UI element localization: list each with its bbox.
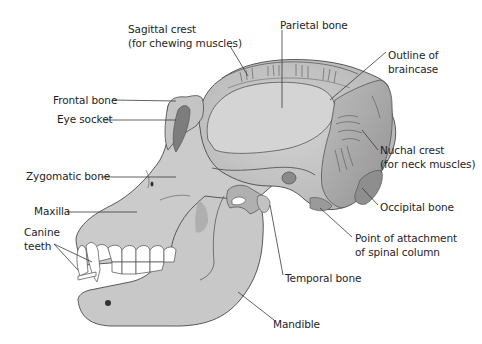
label-line: Sagittal crest — [128, 22, 242, 36]
label-line: Occipital bone — [380, 200, 454, 214]
label-line: braincase — [388, 62, 438, 76]
label-line: Maxilla — [34, 204, 70, 218]
leader-temporal-bone — [270, 205, 283, 275]
label-nuchal-crest: Nuchal crest (for neck muscles) — [380, 143, 475, 171]
skull-diagram: Sagittal crest (for chewing muscles) Par… — [0, 0, 482, 344]
leader-mandible — [238, 292, 274, 320]
leader-spinal-attachment — [320, 208, 352, 237]
label-line: Canine — [24, 225, 60, 239]
label-mandible: Mandible — [273, 317, 320, 331]
label-canine-teeth: Canine teeth — [24, 225, 60, 253]
label-line: Point of attachment — [355, 231, 457, 245]
label-maxilla: Maxilla — [34, 204, 70, 218]
label-line: of spinal column — [355, 245, 457, 259]
leader-frontal-bone — [112, 100, 176, 101]
ear-opening — [282, 172, 296, 184]
label-line: (for chewing muscles) — [128, 36, 242, 50]
label-occipital-bone: Occipital bone — [380, 200, 454, 214]
label-zygomatic-bone: Zygomatic bone — [26, 169, 110, 183]
label-line: Temporal bone — [285, 271, 361, 285]
label-line: Parietal bone — [280, 18, 348, 32]
label-line: (for neck muscles) — [380, 157, 475, 171]
mental-foramen — [105, 300, 111, 306]
label-temporal-bone: Temporal bone — [285, 271, 361, 285]
label-line: Mandible — [273, 317, 320, 331]
label-spinal-attachment: Point of attachment of spinal column — [355, 231, 457, 259]
label-parietal-bone: Parietal bone — [280, 18, 348, 32]
label-line: Eye socket — [57, 112, 113, 126]
label-line: Frontal bone — [53, 93, 117, 107]
label-line: Zygomatic bone — [26, 169, 110, 183]
label-outline-braincase: Outline of braincase — [388, 48, 438, 76]
label-line: Outline of — [388, 48, 438, 62]
label-line: Nuchal crest — [380, 143, 475, 157]
label-eye-socket: Eye socket — [57, 112, 113, 126]
label-sagittal-crest: Sagittal crest (for chewing muscles) — [128, 22, 242, 50]
label-line: teeth — [24, 239, 60, 253]
label-frontal-bone: Frontal bone — [53, 93, 117, 107]
